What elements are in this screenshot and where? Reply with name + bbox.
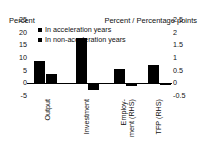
bar [160, 83, 171, 85]
bar [46, 74, 57, 83]
y-tick-label-left: 5 [23, 67, 27, 75]
x-axis-label: Investment [83, 99, 91, 157]
x-axis-label: Employ- ment (RHS) [120, 99, 136, 157]
bar [88, 83, 99, 89]
y-tick-label-right: 0.5 [173, 67, 183, 75]
bar [148, 65, 159, 83]
bar [126, 83, 137, 86]
y-tick-label-right: -0.5 [173, 92, 185, 100]
y-tick-label-right: 1 [173, 54, 177, 62]
bar [76, 38, 87, 84]
x-axis-label: TFP (RHS) [155, 99, 163, 157]
bar [34, 61, 45, 84]
y-tick-label-left: 15 [19, 41, 27, 49]
y-tick-label-left: 20 [19, 29, 27, 37]
y-tick-label-left: 25 [19, 16, 27, 24]
bar [114, 69, 125, 83]
plot-area: 2520151050-5 2.521.510.50-0.5 [30, 20, 169, 96]
y-tick-label-left: 10 [19, 54, 27, 62]
y-tick-label-right: 2 [173, 29, 177, 37]
y-tick-label-left: -5 [21, 92, 27, 100]
y-tick-label-right: 0 [173, 79, 177, 87]
bar-chart: Percent Percent / Percentage points In a… [0, 0, 199, 158]
x-axis-label: Output [44, 99, 52, 157]
y-tick-label-left: 0 [23, 79, 27, 87]
y-tick-label-right: 2.5 [173, 16, 183, 24]
y-tick-label-right: 1.5 [173, 41, 183, 49]
zero-baseline [27, 83, 172, 84]
